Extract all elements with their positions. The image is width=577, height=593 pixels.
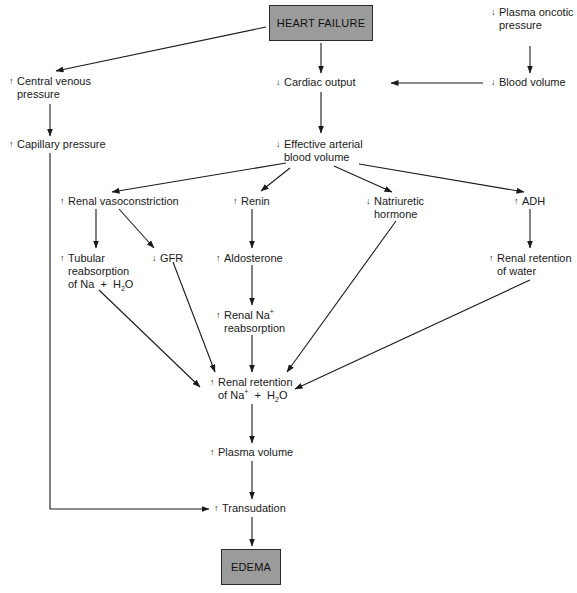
node-text: Transudation <box>222 502 286 514</box>
edge-effective-renin <box>261 168 290 191</box>
increase-arrow-icon: ↑ <box>210 446 217 459</box>
increase-arrow-icon: ↑ <box>214 502 221 515</box>
edema-box: EDEMA <box>221 549 281 585</box>
node-text: O <box>125 278 134 290</box>
decrease-arrow-icon: ↓ <box>152 252 159 265</box>
node-capillary-pressure: ↑Capillary pressure <box>9 138 106 151</box>
node-renal-retention-water: ↑Renal retentionof water <box>489 252 572 278</box>
node-text: Effective arterial <box>284 138 363 150</box>
node-text: Tubular <box>68 252 105 264</box>
node-text: Aldosterone <box>224 252 283 264</box>
node-renal-vasoconstriction: ↑Renal vasoconstriction <box>60 195 179 208</box>
increase-arrow-icon: ↑ <box>9 75 16 88</box>
node-tubular-reabsorption: ↑Tubularreabsorptionof Na + H2O <box>60 252 133 291</box>
increase-arrow-icon: ↑ <box>514 195 521 208</box>
node-text: Plasma volume <box>218 446 293 458</box>
node-text: Renal retention <box>497 252 572 264</box>
decrease-arrow-icon: ↓ <box>491 76 498 89</box>
edema-label: EDEMA <box>231 561 271 573</box>
node-plasma-oncotic-pressure: ↓Plasma oncoticpressure <box>491 6 574 32</box>
node-text: blood volume <box>284 151 349 163</box>
edge-effective-natriuretic <box>334 166 392 192</box>
heart-failure-label: HEART FAILURE <box>277 17 365 29</box>
node-text: Renal vasoconstriction <box>68 195 179 207</box>
edge-effective-vasoconstriction <box>112 163 286 192</box>
node-text: reabsorption <box>224 322 285 334</box>
node-adh: ↑ADH <box>514 195 545 208</box>
node-renal-retention-na-h2o: ↑Renal retentionof Na+ + H2O <box>210 376 293 402</box>
superscript: + <box>270 308 274 315</box>
node-text: O <box>279 389 288 401</box>
node-text: Renin <box>241 195 270 207</box>
decrease-arrow-icon: ↓ <box>276 138 283 151</box>
node-text: of Na <box>218 389 244 401</box>
node-text: pressure <box>17 88 60 100</box>
increase-arrow-icon: ↑ <box>9 138 16 151</box>
edge-tubular-retention <box>99 290 200 387</box>
increase-arrow-icon: ↑ <box>210 376 217 389</box>
node-renal-na-reabsorption: ↑Renal Na+reabsorption <box>216 309 285 335</box>
node-text: of Na + H <box>68 278 121 290</box>
node-text: Natriuretic <box>374 195 424 207</box>
decrease-arrow-icon: ↓ <box>491 6 498 19</box>
node-text: + H <box>248 389 275 401</box>
node-text: hormone <box>374 208 417 220</box>
node-text: Cardiac output <box>284 76 356 88</box>
edge-heartfailure-centralvenous <box>56 27 266 71</box>
node-text: of water <box>497 265 536 277</box>
increase-arrow-icon: ↑ <box>233 195 240 208</box>
flowchart-canvas: HEART FAILURE ↓Plasma oncoticpressure ↑C… <box>0 0 577 593</box>
node-aldosterone: ↑Aldosterone <box>216 252 283 265</box>
decrease-arrow-icon: ↓ <box>366 195 373 208</box>
heart-failure-box: HEART FAILURE <box>269 5 373 41</box>
node-text: Renal retention <box>218 376 293 388</box>
increase-arrow-icon: ↑ <box>489 252 496 265</box>
node-text: GFR <box>160 252 183 264</box>
node-renin: ↑Renin <box>233 195 270 208</box>
node-central-venous-pressure: ↑Central venouspressure <box>9 75 91 101</box>
node-text: pressure <box>499 19 542 31</box>
increase-arrow-icon: ↑ <box>60 252 67 265</box>
node-text: Central venous <box>17 75 91 87</box>
decrease-arrow-icon: ↓ <box>276 76 283 89</box>
increase-arrow-icon: ↑ <box>216 309 223 322</box>
node-text: Capillary pressure <box>17 138 106 150</box>
node-text: Renal Na <box>224 309 270 321</box>
edge-gfr-retention <box>173 262 215 372</box>
node-transudation: ↑Transudation <box>214 502 286 515</box>
edge-vasoconstriction-gfr <box>119 209 154 248</box>
node-gfr: ↓GFR <box>152 252 183 265</box>
edge-renalwater-retention <box>295 280 530 389</box>
node-plasma-volume: ↑Plasma volume <box>210 446 293 459</box>
node-text: Plasma oncotic <box>499 6 574 18</box>
node-natriuretic-hormone: ↓Natriuretichormone <box>366 195 424 221</box>
node-text: Blood volume <box>499 76 566 88</box>
node-text: reabsorption <box>68 265 129 277</box>
node-blood-volume: ↓Blood volume <box>491 76 566 89</box>
node-text: ADH <box>522 195 545 207</box>
node-effective-arterial-blood-volume: ↓Effective arterialblood volume <box>276 138 363 164</box>
increase-arrow-icon: ↑ <box>60 195 67 208</box>
node-cardiac-output: ↓Cardiac output <box>276 76 356 89</box>
increase-arrow-icon: ↑ <box>216 252 223 265</box>
